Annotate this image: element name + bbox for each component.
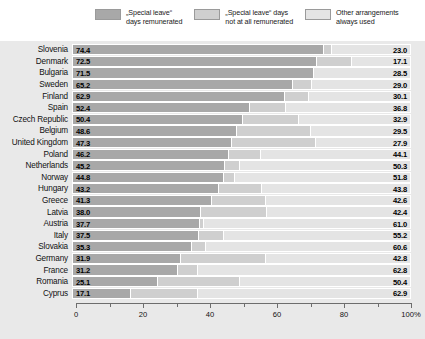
segment-remunerated <box>73 173 224 182</box>
bar-row: Italy37.555.2 <box>0 230 425 242</box>
axis-tick-minor <box>244 303 245 307</box>
segment-remunerated <box>73 184 219 193</box>
segment-remunerated <box>73 138 232 147</box>
segment-other-arrangements <box>286 103 410 112</box>
country-label: Latvia <box>0 208 72 217</box>
segment-not-remunerated <box>225 161 240 170</box>
bar-row: Slovenia74.423.0 <box>0 44 425 56</box>
segment-remunerated <box>73 242 192 251</box>
value-label-right: 23.0 <box>393 45 407 54</box>
segment-remunerated <box>73 80 293 89</box>
segment-not-remunerated <box>212 196 266 205</box>
legend-label-remunerated: „Special leave“ days remunerated <box>126 8 182 27</box>
value-label-left: 62.9 <box>76 92 90 101</box>
value-label-left: 65.2 <box>76 80 90 89</box>
segment-remunerated <box>73 115 243 124</box>
value-label-right: 42.6 <box>393 196 407 205</box>
value-label-right: 60.6 <box>393 242 407 251</box>
legend-label-other-arrangements: Other arrangements always used <box>336 8 399 27</box>
segment-other-arrangements <box>266 254 410 263</box>
value-label-right: 42.8 <box>393 254 407 263</box>
bar-row: Austria37.761.0 <box>0 218 425 230</box>
segment-not-remunerated <box>224 173 235 182</box>
country-label: Slovenia <box>0 45 72 54</box>
stacked-bar-chart: „Special leave“ days remunerated„Special… <box>0 0 425 339</box>
segment-remunerated <box>73 150 229 159</box>
bar-track: 37.761.0 <box>72 218 411 229</box>
segment-not-remunerated <box>229 150 262 159</box>
value-label-left: 38.0 <box>76 208 90 217</box>
value-label-right: 30.1 <box>393 92 407 101</box>
bar-row: Greece41.342.6 <box>0 195 425 207</box>
country-label: Denmark <box>0 57 72 66</box>
value-label-left: 31.2 <box>76 266 90 275</box>
bar-track: 46.244.1 <box>72 149 411 160</box>
bar-row: Netherlands45.250.3 <box>0 160 425 172</box>
bar-track: 35.360.6 <box>72 241 411 252</box>
bar-track: 65.229.0 <box>72 79 411 90</box>
value-label-right: 61.0 <box>393 219 407 228</box>
bar-row: Slovakia35.360.6 <box>0 241 425 253</box>
segment-remunerated <box>73 196 212 205</box>
segment-not-remunerated <box>181 254 266 263</box>
segment-not-remunerated <box>178 265 198 274</box>
country-label: Slovakia <box>0 242 72 251</box>
value-label-right: 44.1 <box>393 150 407 159</box>
value-label-right: 28.5 <box>393 68 407 77</box>
value-label-left: 41.3 <box>76 196 90 205</box>
segment-other-arrangements <box>262 184 410 193</box>
axis-tick-minor <box>110 303 111 307</box>
segment-remunerated <box>73 103 250 112</box>
value-label-left: 74.4 <box>76 45 90 54</box>
axis-tick <box>143 303 144 308</box>
bar-track: 45.250.3 <box>72 160 411 171</box>
segment-not-remunerated <box>219 184 263 193</box>
segment-other-arrangements <box>198 265 410 274</box>
segment-not-remunerated <box>285 92 309 101</box>
segment-other-arrangements <box>204 219 410 228</box>
value-label-right: 29.0 <box>393 80 407 89</box>
chart-legend: „Special leave“ days remunerated„Special… <box>0 8 425 36</box>
bar-track: 50.432.9 <box>72 114 411 125</box>
axis-tick-label: 0 <box>74 310 78 319</box>
value-label-left: 31.9 <box>76 254 90 263</box>
x-axis: 020406080100% <box>76 303 411 333</box>
segment-remunerated <box>73 68 314 77</box>
value-label-left: 50.4 <box>76 115 90 124</box>
axis-tick <box>344 303 345 308</box>
value-label-left: 52.4 <box>76 103 90 112</box>
axis-tick-label: 80 <box>340 310 348 319</box>
segment-other-arrangements <box>240 161 410 170</box>
bar-track: 71.528.5 <box>72 67 411 78</box>
country-label: Czech Republic <box>0 115 72 124</box>
bar-row: Latvia38.042.4 <box>0 206 425 218</box>
legend-swatch-remunerated <box>95 9 121 20</box>
axis-tick <box>411 303 412 308</box>
segment-other-arrangements <box>224 231 410 240</box>
legend-item-not-remunerated: „Special leave“ days not at all remunera… <box>194 8 293 27</box>
country-label: France <box>0 266 72 275</box>
country-label: Norway <box>0 173 72 182</box>
segment-remunerated <box>73 45 324 54</box>
legend-swatch-other-arrangements <box>305 9 331 20</box>
country-label: Poland <box>0 150 72 159</box>
bar-row: Sweden65.229.0 <box>0 79 425 91</box>
segment-not-remunerated <box>232 138 316 147</box>
segment-remunerated <box>73 92 285 101</box>
segment-not-remunerated <box>131 289 198 298</box>
bar-row: Spain52.436.8 <box>0 102 425 114</box>
bar-row: Romania25.150.4 <box>0 276 425 288</box>
segment-remunerated <box>73 219 200 228</box>
bar-track: 44.851.8 <box>72 172 411 183</box>
segment-not-remunerated <box>201 207 267 216</box>
value-label-right: 50.4 <box>393 277 407 286</box>
value-label-right: 29.5 <box>393 126 407 135</box>
segment-other-arrangements <box>240 277 410 286</box>
segment-remunerated <box>73 126 237 135</box>
bar-row: Germany31.942.8 <box>0 253 425 265</box>
country-label: Italy <box>0 231 72 240</box>
bar-row: Hungary43.243.8 <box>0 183 425 195</box>
bar-track: 41.342.6 <box>72 195 411 206</box>
value-label-left: 17.1 <box>76 289 90 298</box>
legend-item-other-arrangements: Other arrangements always used <box>305 8 399 27</box>
